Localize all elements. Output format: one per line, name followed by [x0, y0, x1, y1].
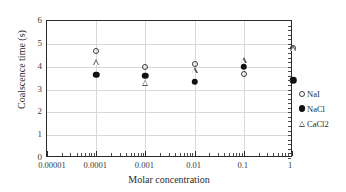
data-point-nacl — [93, 71, 100, 78]
y-axis-minor-tick — [288, 85, 291, 86]
x-axis-minor-tick — [267, 153, 268, 156]
x-axis-minor-tick — [229, 153, 230, 156]
x-axis-minor-tick — [94, 153, 95, 156]
data-point-nai — [93, 48, 99, 54]
legend-item-nai: NaI — [297, 86, 346, 101]
y-axis-minor-tick — [288, 149, 291, 150]
vertical-gridline — [145, 21, 146, 156]
y-axis-minor-tick — [288, 112, 291, 113]
x-axis-minor-tick — [187, 153, 188, 156]
y-axis-minor-tick — [288, 135, 291, 136]
x-axis-minor-tick — [233, 153, 234, 156]
data-point-cacl2 — [192, 67, 198, 73]
x-axis-minor-tick — [111, 153, 112, 156]
x-axis-minor-tick — [91, 153, 92, 156]
y-axis-minor-tick — [288, 76, 291, 77]
y-axis-minor-tick — [288, 80, 291, 81]
legend-item-label: NaI — [307, 89, 320, 99]
x-axis-minor-tick — [62, 153, 63, 156]
y-axis-minor-tick — [288, 35, 291, 36]
vertical-gridline — [96, 21, 97, 156]
horizontal-gridline — [47, 135, 291, 136]
y-axis-tick-label: 3 — [28, 84, 42, 94]
horizontal-gridline — [47, 44, 291, 45]
x-axis-minor-tick — [282, 153, 283, 156]
x-axis-minor-tick — [85, 153, 86, 156]
y-axis-minor-tick — [288, 108, 291, 109]
y-axis-minor-tick — [288, 48, 291, 49]
legend-item-label: CaCl2 — [307, 119, 329, 129]
legend: NaINaClCaCl2 — [297, 86, 346, 131]
x-axis-minor-tick — [141, 153, 142, 156]
y-axis-minor-tick — [288, 39, 291, 40]
x-axis-minor-tick — [209, 153, 210, 156]
x-axis-tick-label: 0.1 — [237, 160, 248, 170]
data-point-nai — [241, 71, 247, 77]
x-axis-minor-tick — [169, 153, 170, 156]
x-axis-minor-tick — [138, 153, 139, 156]
x-axis-major-tick — [195, 151, 196, 156]
horizontal-gridline — [47, 90, 291, 91]
x-axis-minor-tick — [184, 153, 185, 156]
y-axis-tick-label: 1 — [28, 129, 42, 139]
y-axis-tick-label: 2 — [28, 106, 42, 116]
y-axis-title: Coalscence time (s) — [16, 5, 27, 135]
x-axis-major-tick — [244, 151, 245, 156]
x-axis-minor-tick — [160, 153, 161, 156]
data-point-cacl2 — [93, 59, 99, 65]
y-axis-minor-tick — [288, 131, 291, 132]
y-axis-minor-tick — [288, 153, 291, 154]
vertical-gridline — [244, 21, 245, 156]
x-axis-major-tick — [145, 151, 146, 156]
y-axis-tick-labels: 0123456 — [26, 20, 42, 157]
y-axis-minor-tick — [288, 121, 291, 122]
open-triangle-icon — [297, 121, 307, 127]
x-axis-minor-tick — [224, 153, 225, 156]
vertical-gridline — [195, 21, 196, 156]
data-point-nacl — [241, 63, 248, 70]
x-axis-minor-tick — [236, 153, 237, 156]
x-axis-minor-tick — [278, 153, 279, 156]
chart-container: Coalscence time (s) 0123456 0.000010.000… — [0, 0, 346, 192]
horizontal-gridline — [47, 112, 291, 113]
y-axis-minor-tick — [288, 26, 291, 27]
y-axis-minor-tick — [288, 53, 291, 54]
legend-item-cacl2: CaCl2 — [297, 116, 346, 131]
legend-item-label: NaCl — [307, 104, 325, 114]
y-axis-minor-tick — [288, 103, 291, 104]
data-point-cacl2 — [142, 80, 148, 86]
y-axis-minor-tick — [288, 144, 291, 145]
y-axis-minor-tick — [288, 67, 291, 68]
y-axis-minor-tick — [288, 58, 291, 59]
data-point-cacl2 — [241, 57, 247, 63]
y-axis-minor-tick — [288, 140, 291, 141]
x-axis-minor-tick — [175, 153, 176, 156]
open-circle-icon — [297, 91, 307, 97]
filled-circle-icon — [297, 105, 307, 112]
x-axis-minor-tick — [143, 153, 144, 156]
x-axis-minor-tick — [242, 153, 243, 156]
x-axis-major-tick — [47, 151, 48, 156]
y-axis-minor-tick — [288, 44, 291, 45]
x-axis-minor-tick — [89, 153, 90, 156]
x-axis-minor-tick — [259, 153, 260, 156]
x-axis-minor-tick — [77, 153, 78, 156]
x-axis-minor-tick — [218, 153, 219, 156]
x-axis-tick-label: 0.01 — [186, 160, 201, 170]
x-axis-minor-tick — [131, 153, 132, 156]
x-axis-minor-tick — [81, 153, 82, 156]
y-axis-tick-label: 4 — [28, 61, 42, 71]
x-axis-tick-label: 0.001 — [135, 160, 154, 170]
plot-area — [46, 20, 292, 157]
x-axis-tick-label: 0.0001 — [84, 160, 107, 170]
data-point-nai — [142, 64, 148, 70]
x-axis-tick-labels: 0.000010.00010.0010.010.11 — [46, 158, 292, 172]
x-axis-minor-tick — [239, 153, 240, 156]
y-axis-minor-tick — [288, 94, 291, 95]
y-axis-minor-tick — [288, 126, 291, 127]
y-axis-tick-label: 6 — [28, 15, 42, 25]
x-axis-minor-tick — [70, 153, 71, 156]
data-point-nacl — [191, 78, 198, 85]
y-axis-minor-tick — [288, 90, 291, 91]
x-axis-minor-tick — [134, 153, 135, 156]
